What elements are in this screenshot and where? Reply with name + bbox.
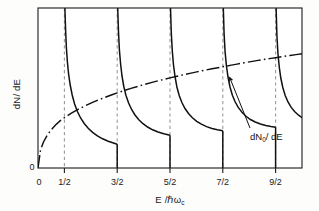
x-axis-label-main: E / [155,194,167,205]
xtick-label-half: 1/2 [58,177,71,187]
annotation-prefix: dN [250,131,262,142]
x-axis-label: E /ℏωc [155,194,185,206]
xtick-label-nine-halves: 9/2 [269,177,282,187]
xtick-label-seven-halves: 7/2 [217,177,230,187]
xtick-label-0: 0 [36,177,41,187]
density-of-states-chart: 0 1/2 3/2 5/2 7/2 9/2 0 dN/ dE E /ℏωc dN… [0,0,319,211]
xtick-label-five-halves: 5/2 [164,177,177,187]
x-axis-label-omega-sub: c [181,199,185,206]
y-origin-label: 0 [29,162,34,172]
xtick-label-three-halves: 3/2 [111,177,124,187]
svg-text:E /ℏωc: E /ℏωc [155,194,185,206]
svg-text:dN0/ dE: dN0/ dE [250,131,283,143]
y-axis-label: dN/ dE [11,79,22,109]
figure-container: 0 1/2 3/2 5/2 7/2 9/2 0 dN/ dE E /ℏωc dN… [0,0,319,211]
smooth-dos-label: dN0/ dE [250,131,283,143]
x-axis-ticks [64,168,275,173]
annotation-suffix: / dE [266,131,283,142]
